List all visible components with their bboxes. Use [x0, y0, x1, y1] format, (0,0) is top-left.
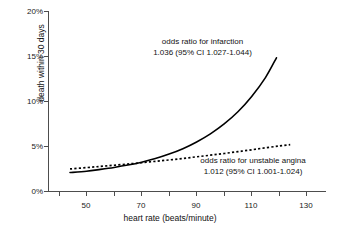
annotation-infarction: odds ratio for infarction 1.036 (95% CI … — [120, 36, 285, 58]
x-axis-title: heart rate (beats/minute) — [0, 213, 340, 223]
annotation-infarction-line2: 1.036 (95% CI 1.027-1.044) — [120, 47, 285, 58]
x-tick-label-130: 130 — [291, 201, 321, 210]
annotation-angina-line2: 1.012 (95% CI 1.001-1.024) — [168, 166, 338, 177]
y-tick-label-0: 0% — [31, 187, 43, 196]
annotation-angina-line1: odds ratio for unstable angina — [200, 156, 305, 165]
y-tick-label-20: 20% — [27, 7, 43, 16]
annotation-infarction-line1: odds ratio for infarction — [162, 37, 243, 46]
x-tick-label-50: 50 — [71, 201, 101, 210]
annotation-angina: odds ratio for unstable angina 1.012 (95… — [168, 155, 338, 177]
x-tick-label-110: 110 — [236, 201, 266, 210]
x-tick-label-70: 70 — [126, 201, 156, 210]
y-tick-label-5: 5% — [31, 142, 43, 151]
y-axis-title: death within 30 days — [36, 18, 46, 108]
x-tick-label-90: 90 — [181, 201, 211, 210]
chart-figure: 20% 15% 10% 5% 0% 50 70 90 110 130 death… — [0, 0, 340, 237]
